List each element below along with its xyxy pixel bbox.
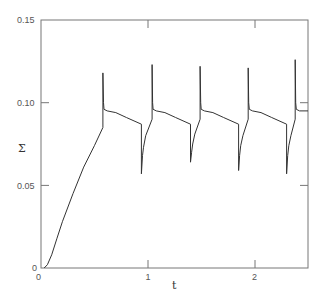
data-series-line [44, 60, 308, 268]
y-tick-label-015: 0.15 [17, 15, 35, 25]
x-axis-title: t [172, 279, 177, 292]
y-tick-label-010: 0.10 [17, 98, 35, 108]
y-axis-title: Σ [18, 142, 26, 155]
chart-canvas: 0.15 0.10 0.05 0 0 1 2 t Σ [0, 0, 324, 302]
x-tick-label-0: 0 [36, 272, 41, 282]
x-tick-label-2: 2 [252, 272, 257, 282]
x-tick-label-1: 1 [146, 272, 151, 282]
plot-frame [41, 20, 308, 268]
y-tick-label-005: 0.05 [17, 181, 35, 191]
